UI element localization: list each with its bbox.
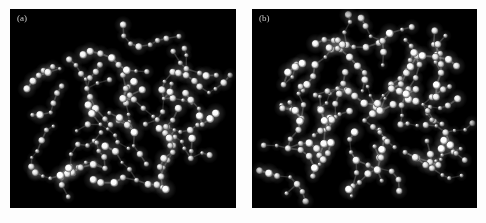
figure-root: (a) (b) <box>0 0 486 223</box>
molecular-structure-canvas-b <box>252 9 477 208</box>
panel-b-label: (b) <box>259 13 270 24</box>
molecular-structure-canvas-a <box>10 9 236 208</box>
panel-b: (b) <box>252 9 477 208</box>
panel-a-label: (a) <box>17 13 27 24</box>
panel-a: (a) <box>10 9 236 208</box>
